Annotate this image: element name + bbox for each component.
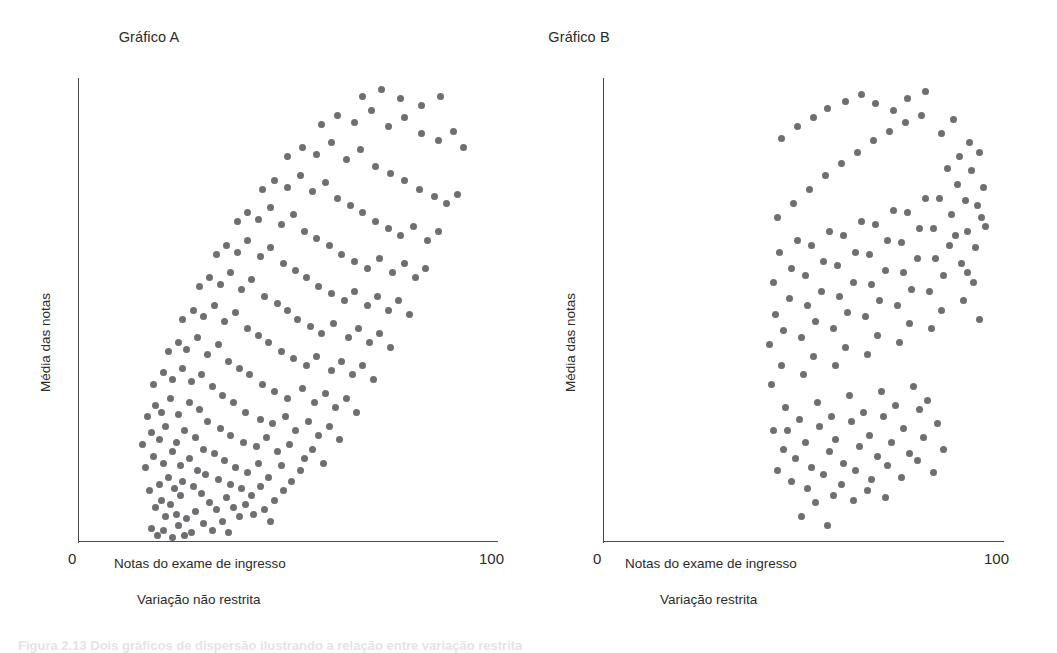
scatter-point [940, 272, 947, 279]
scatter-point [786, 295, 793, 302]
scatter-point [868, 281, 875, 288]
scatter-point [204, 418, 211, 425]
x-tick-min-b: 0 [593, 550, 601, 567]
scatter-point [930, 469, 937, 476]
scatter-point [257, 483, 264, 490]
scatter-point [888, 439, 895, 446]
scatter-point [401, 114, 408, 121]
scatter-point [250, 511, 257, 518]
scatter-point [343, 395, 350, 402]
scatter-point [359, 93, 366, 100]
scatter-point [244, 209, 251, 216]
scatter-point [770, 427, 777, 434]
scatter-point [200, 446, 207, 453]
scatter-point [908, 286, 915, 293]
scatter-point [832, 436, 839, 443]
scatter-point [858, 91, 865, 98]
scatter-point [780, 446, 787, 453]
scatter-point [139, 441, 146, 448]
scatter-point [435, 228, 442, 235]
scatter-point [852, 467, 859, 474]
scatter-point [196, 406, 203, 413]
scatter-point [844, 309, 851, 316]
scatter-point [257, 416, 264, 423]
panel-grafico-a: Gráfico A 0 100 Média das notas Notas do… [0, 0, 528, 653]
x-axis-label-a: Notas do exame de ingresso [114, 556, 286, 571]
scatter-point [397, 232, 404, 239]
scatter-point [914, 457, 921, 464]
scatter-point [148, 525, 155, 532]
scatter-point [906, 320, 913, 327]
scatter-point [334, 112, 341, 119]
scatter-point [294, 316, 301, 323]
scatter-point [217, 281, 224, 288]
scatter-point [930, 225, 937, 232]
scatter-point [906, 450, 913, 457]
scatter-point [271, 388, 278, 395]
scatter-point [416, 186, 423, 193]
scatter-point [366, 339, 373, 346]
scatter-point [772, 311, 779, 318]
scatter-point [328, 290, 335, 297]
scatter-point [900, 269, 907, 276]
scatter-point [374, 293, 381, 300]
scatter-point [884, 462, 891, 469]
scatter-point [920, 434, 927, 441]
scatter-point [368, 107, 375, 114]
y-axis-label-b: Média das notas [563, 293, 578, 392]
scatter-point [770, 279, 777, 286]
scatter-point [181, 427, 188, 434]
scatter-point [179, 365, 186, 372]
x-tick-max-a: 100 [479, 550, 504, 567]
scatter-point [784, 427, 791, 434]
scatter-point [192, 508, 199, 515]
scatter-point [904, 95, 911, 102]
scatter-point [194, 467, 201, 474]
scatter-point [162, 423, 169, 430]
scatter-point [852, 249, 859, 256]
scatter-point [450, 128, 457, 135]
scatter-point [234, 249, 241, 256]
scatter-point [934, 420, 941, 427]
scatter-point [169, 534, 176, 541]
scatter-point [183, 346, 190, 353]
scatter-point [160, 527, 167, 534]
scatter-point [299, 144, 306, 151]
scatter-point [284, 395, 291, 402]
scatter-point [261, 293, 268, 300]
y-axis-line-b [603, 78, 604, 543]
scatter-point [297, 172, 304, 179]
scatter-point [840, 232, 847, 239]
scatter-point [274, 300, 281, 307]
scatter-point [948, 211, 955, 218]
scatter-point [359, 362, 366, 369]
scatter-point [209, 383, 216, 390]
scatter-point [198, 490, 205, 497]
scatter-point [156, 436, 163, 443]
scatter-point [318, 330, 325, 337]
scatter-point [882, 267, 889, 274]
scatter-point [280, 260, 287, 267]
scatter-point [860, 409, 867, 416]
scatter-point [152, 402, 159, 409]
scatter-point [798, 513, 805, 520]
scatter-point [454, 191, 461, 198]
scatter-point [165, 474, 172, 481]
scatter-point [864, 351, 871, 358]
scatter-point [257, 253, 264, 260]
scatter-point [196, 283, 203, 290]
scatter-point [156, 481, 163, 488]
scatter-point [328, 139, 335, 146]
scatter-point [152, 504, 159, 511]
scatter-point [297, 467, 304, 474]
scatter-point [175, 339, 182, 346]
scatter-point [206, 274, 213, 281]
scatter-point [800, 371, 807, 378]
scatter-point [364, 302, 371, 309]
scatter-point [150, 381, 157, 388]
scatter-point [318, 121, 325, 128]
figure-caption: Figura 2.13 Dois gráficos de dispersão i… [18, 638, 522, 653]
scatter-point [177, 492, 184, 499]
scatter-point [816, 423, 823, 430]
scatter-point [162, 513, 169, 520]
